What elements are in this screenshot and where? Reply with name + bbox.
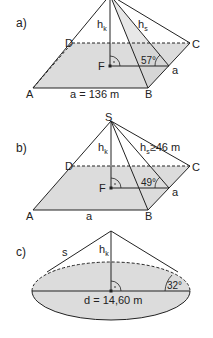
base-label: a xyxy=(86,210,93,222)
angle-57: 57° xyxy=(141,55,156,66)
base-label: a = 136 m xyxy=(70,88,119,100)
label-a: a) xyxy=(16,16,27,30)
vertex-B: B xyxy=(145,88,152,100)
vertex-F: F xyxy=(99,182,106,194)
cone-c: c) s hk 32° d = 14,60 m xyxy=(16,231,190,320)
label-b: b) xyxy=(16,141,27,155)
diameter-label: d = 14,60 m xyxy=(84,294,142,306)
vertex-C: C xyxy=(192,38,200,50)
pyramid-a: a) hk hs D C F 57° a A B a = 136 m xyxy=(16,0,200,100)
hs-label: hs xyxy=(138,18,148,32)
side-a: a xyxy=(172,186,179,198)
hk-label: hk xyxy=(99,243,109,257)
vertex-S: S xyxy=(105,111,112,123)
pyramid-b: S b) hk hs≥46 m D C F 49° a A B a xyxy=(16,111,200,222)
vertex-F: F xyxy=(98,60,105,72)
angle-49: 49° xyxy=(141,177,156,188)
label-c: c) xyxy=(16,245,26,259)
vertex-B: B xyxy=(145,210,152,222)
vertex-A: A xyxy=(26,210,34,222)
vertex-D: D xyxy=(65,160,73,172)
vertex-D: D xyxy=(65,37,73,49)
vertex-C: C xyxy=(192,161,200,173)
hk-label: hk xyxy=(97,18,107,32)
slant-s: s xyxy=(62,246,68,258)
vertex-A: A xyxy=(26,88,34,100)
angle-32: 32° xyxy=(167,280,182,291)
side-a: a xyxy=(172,64,179,76)
hk-label: hk xyxy=(98,141,108,155)
hs-label: hs≥46 m xyxy=(140,141,180,155)
figure-canvas: a) hk hs D C F 57° a A B a = 136 m S b) … xyxy=(0,0,213,338)
